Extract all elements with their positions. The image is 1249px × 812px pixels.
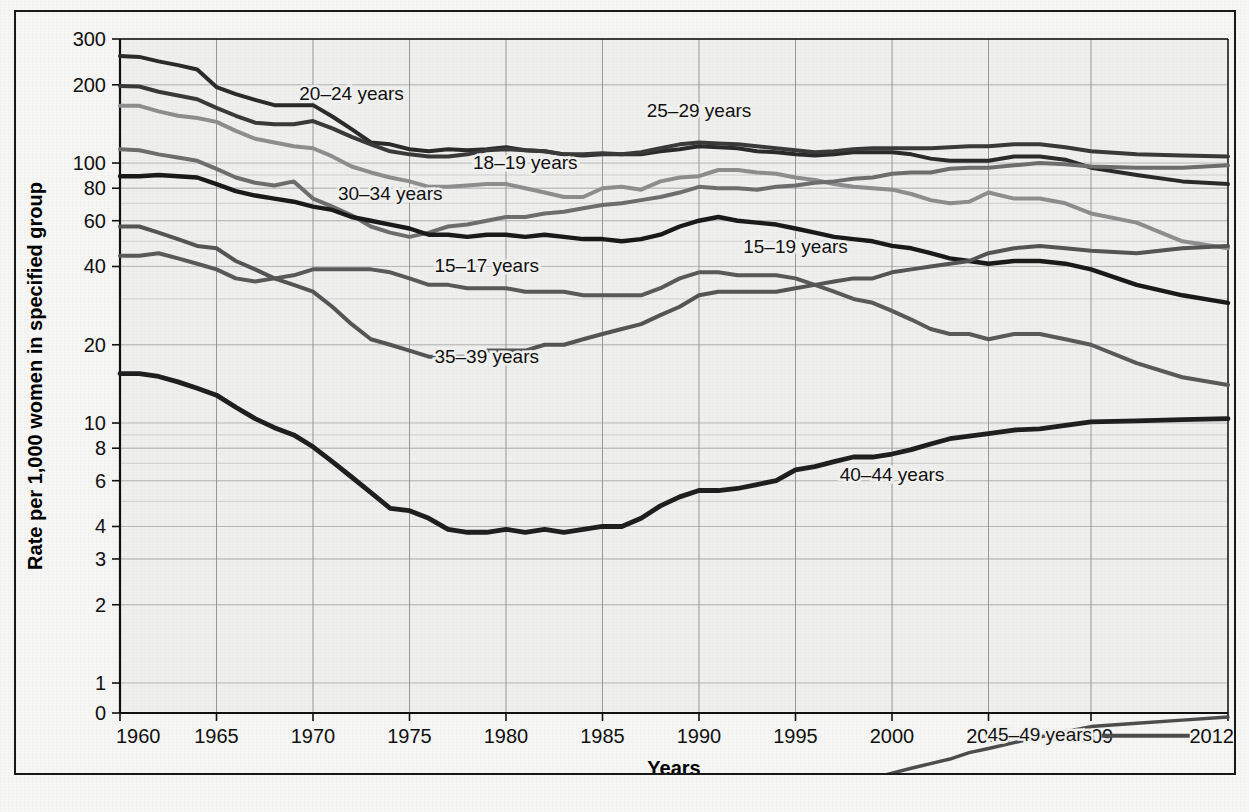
y-tick-label: 10	[84, 412, 106, 434]
series-annotation: 15–17 years	[434, 255, 539, 276]
x-tick-label: 1965	[194, 725, 239, 747]
y-tick-label: 3	[95, 548, 106, 570]
line-chart: 3002001008060402010864321019601965197019…	[16, 12, 1234, 773]
series-annotation: 18–19 years	[473, 152, 578, 173]
x-tick-label: 2000	[870, 725, 915, 747]
y-tick-label: 2	[95, 594, 106, 616]
x-tick-label: 1995	[773, 725, 818, 747]
y-tick-label: 8	[95, 437, 106, 459]
y-tick-label: 200	[73, 74, 106, 96]
y-tick-label: 4	[95, 515, 106, 537]
y-tick-label: 100	[73, 152, 106, 174]
y-tick-label: 1	[95, 672, 106, 694]
x-tick-label: 1980	[484, 725, 529, 747]
series-annotation: 45–49 years	[987, 724, 1092, 745]
y-axis-title: Rate per 1,000 women in specified group	[24, 182, 46, 570]
series-annotation: 20–24 years	[299, 83, 404, 104]
plot-area	[120, 39, 1228, 713]
x-tick-label: 1970	[291, 725, 336, 747]
x-tick-label: 2012	[1190, 725, 1235, 747]
y-tick-label: 60	[84, 210, 106, 232]
series-annotation: 15–19 years	[743, 236, 848, 257]
series-annotation: 25–29 years	[647, 100, 752, 121]
x-axis-title: Years	[647, 757, 700, 773]
series-annotation: 35–39 years	[434, 346, 539, 367]
y-tick-label: 20	[84, 334, 106, 356]
figure-container: 3002001008060402010864321019601965197019…	[0, 0, 1249, 812]
x-tick-label: 1960	[116, 725, 161, 747]
x-tick-label: 1990	[677, 725, 722, 747]
y-tick-label: 300	[73, 28, 106, 50]
y-tick-label: 6	[95, 470, 106, 492]
y-tick-label: 40	[84, 255, 106, 277]
x-tick-label: 1985	[580, 725, 625, 747]
series-annotation: 30–34 years	[338, 183, 443, 204]
x-tick-label: 1975	[387, 725, 432, 747]
chart-outer-frame: 3002001008060402010864321019601965197019…	[14, 10, 1236, 775]
y-tick-label: 0	[95, 702, 106, 724]
y-tick-label: 80	[84, 177, 106, 199]
series-annotation: 40–44 years	[840, 464, 945, 485]
